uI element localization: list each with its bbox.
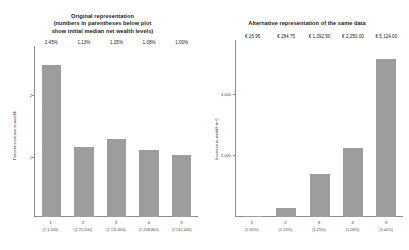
left-y-axis-label: Percent increase in wealth: [12, 111, 17, 160]
bar-value-label: 1.00%: [175, 40, 188, 45]
bar-value-label: € 2,250.00: [342, 34, 364, 39]
right-x-axis-labels: 1 (2.45%) 2 (1.13%) 3 (1.25%) 4 (1.08%) …: [235, 220, 403, 233]
bar-value-label: € 5,124.00: [375, 34, 397, 39]
bar-value-label: 1.25%: [110, 40, 123, 45]
bar-slot: 1.00%: [165, 46, 198, 217]
bar-value-label: 1.13%: [77, 40, 90, 45]
bar[interactable]: [172, 155, 192, 217]
x-tick-sublabel: (1.00%): [369, 226, 403, 233]
x-tick-group: 2 (1.13%): [269, 220, 303, 233]
bar-slot: 2.45%: [35, 46, 68, 217]
x-tick-group: 2 (€ 25,200): [67, 220, 100, 233]
bar-slot: 1.13%: [68, 46, 101, 217]
left-plot-area: 2.45% 1.13% 1.25% 1.08% 1.00%: [34, 46, 198, 217]
bar[interactable]: [343, 148, 363, 217]
x-tick-group: 1 (2.45%): [235, 220, 269, 233]
bar-slot: 1.08%: [133, 46, 166, 217]
x-tick-sublabel: (2.45%): [235, 226, 269, 233]
x-tick-group: 5 (€ 512,400): [165, 220, 198, 233]
x-tick-sublabel: (1.08%): [336, 226, 370, 233]
x-tick-sublabel: (€ 25,200): [67, 226, 100, 233]
bar[interactable]: [107, 139, 127, 217]
bar-slot: € 2,250.00: [336, 40, 369, 217]
x-tick-group: 1 (€ 1,100): [34, 220, 67, 233]
bar[interactable]: [74, 147, 94, 217]
x-tick-group: 4 (1.08%): [336, 220, 370, 233]
right-chart-title-text: Alternative representation of the same d…: [213, 20, 401, 27]
bar-value-label: 2.45%: [45, 40, 58, 45]
x-tick-sublabel: (€ 1,100): [34, 226, 67, 233]
x-tick-group: 4 (€ 208,800): [132, 220, 165, 233]
bar[interactable]: [310, 174, 330, 217]
x-tick-group: 3 (1.25%): [302, 220, 336, 233]
bar[interactable]: [243, 216, 263, 217]
chart-panel-alternative: Alternative representation of the same d…: [205, 0, 409, 250]
bar-slot: € 5,124.00: [370, 40, 403, 217]
bar-slot: € 26.95: [236, 40, 269, 217]
x-tick-sublabel: (1.25%): [302, 226, 336, 233]
left-chart-title-line3: show initial median net wealth levels): [12, 28, 193, 35]
bar-slot: € 284.75: [269, 40, 302, 217]
bar[interactable]: [276, 208, 296, 217]
right-chart-title: Alternative representation of the same d…: [205, 20, 409, 27]
right-bar-group: € 26.95 € 284.75 € 1,392.50 € 2,250.00 €: [236, 40, 403, 217]
x-tick-group: 5 (1.00%): [369, 220, 403, 233]
right-plot-area: € 26.95 € 284.75 € 1,392.50 € 2,250.00 €: [235, 40, 403, 217]
left-chart-title-line2: (numbers in parentheses below plot: [12, 20, 193, 27]
x-tick-sublabel: (€ 208,800): [132, 226, 165, 233]
bar-value-label: € 26.95: [245, 34, 260, 39]
bar-slot: € 1,392.50: [303, 40, 336, 217]
bar-slot: 1.25%: [100, 46, 133, 217]
bar-value-label: € 1,392.50: [309, 34, 331, 39]
bar-value-label: € 284.75: [277, 34, 295, 39]
x-tick-sublabel: (€ 111,400): [100, 226, 133, 233]
right-y-tick-4000: 4,000: [217, 92, 231, 97]
bar[interactable]: [42, 65, 62, 217]
x-tick-group: 3 (€ 111,400): [100, 220, 133, 233]
x-tick-sublabel: (€ 512,400): [165, 226, 198, 233]
right-y-tick-2000: 2,000: [217, 153, 231, 158]
left-chart-title-line1: Original representation: [12, 13, 193, 20]
figure-container: Original representation (numbers in pare…: [0, 0, 409, 250]
bar[interactable]: [139, 150, 159, 217]
chart-panel-original: Original representation (numbers in pare…: [0, 0, 205, 250]
left-chart-title: Original representation (numbers in pare…: [0, 13, 205, 35]
x-tick-sublabel: (1.13%): [269, 226, 303, 233]
left-x-axis-labels: 1 (€ 1,100) 2 (€ 25,200) 3 (€ 111,400) 4…: [34, 220, 198, 233]
bar-value-label: 1.08%: [143, 40, 156, 45]
left-bar-group: 2.45% 1.13% 1.25% 1.08% 1.00%: [35, 46, 198, 217]
bar[interactable]: [376, 59, 396, 217]
